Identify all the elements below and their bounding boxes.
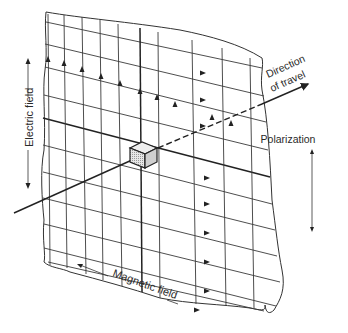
magnetic-field-lines — [43, 22, 280, 311]
magnetic-field-label: Magnetic field — [111, 267, 179, 301]
electric-field-label: Electric field — [23, 88, 35, 147]
electric-field-indicator: Electric field — [23, 58, 35, 189]
em-wave-diagram: Electric field Magnetic field Direction … — [0, 0, 348, 333]
polarization-label: Polarization — [261, 133, 316, 145]
field-cube — [130, 142, 157, 168]
magnetic-field-indicator: Magnetic field — [77, 264, 179, 304]
magnetic-field-arrows — [194, 71, 210, 313]
wave-sheet-outline — [42, 12, 284, 313]
